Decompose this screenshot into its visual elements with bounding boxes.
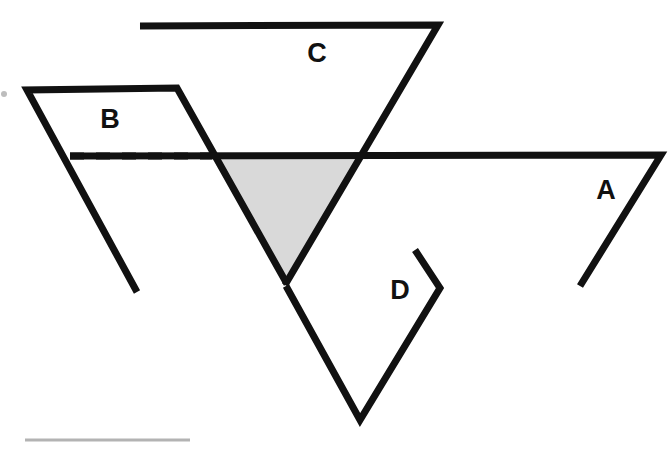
shape-label-d: D [390,275,410,305]
margin-artifact-mark [1,91,7,97]
shape-label-b: B [100,104,120,134]
shape-label-a: A [596,175,616,205]
line-figure-diagram: A B C D [0,0,672,454]
shape-label-c: C [307,38,327,68]
diagram-canvas: A B C D [0,0,672,454]
